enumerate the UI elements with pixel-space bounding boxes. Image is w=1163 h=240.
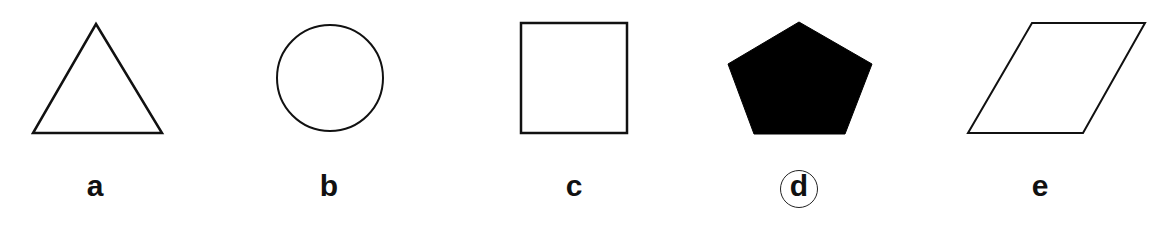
option-label-a: a [65, 168, 125, 204]
option-label-c: c [544, 168, 604, 204]
pentagon-shape [728, 22, 872, 134]
option-label-e: e [1010, 168, 1070, 204]
option-label-b: b [299, 168, 359, 204]
option-label-d: d [769, 168, 829, 204]
square-shape [521, 23, 627, 133]
parallelogram-shape [968, 23, 1145, 133]
triangle-shape [33, 24, 162, 133]
circle-shape [277, 25, 383, 131]
